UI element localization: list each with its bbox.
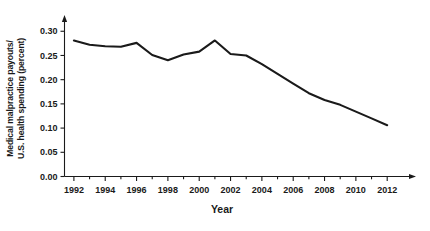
y-tick-label: 0.25 [40, 51, 58, 61]
x-axis-title: Year [211, 203, 233, 215]
x-tick-label: 2000 [189, 185, 209, 195]
x-tick-label: 2010 [346, 185, 366, 195]
data-series-line [74, 40, 387, 125]
y-tick-label: 0.30 [40, 26, 58, 36]
x-axis-title-container: Year [0, 203, 430, 215]
x-axis-ticks: 1992199419961998200020022004200620082010… [64, 177, 397, 195]
x-tick-label: 2008 [315, 185, 335, 195]
x-tick-label: 2006 [283, 185, 303, 195]
x-tick-label: 1992 [64, 185, 84, 195]
x-tick-label: 1996 [127, 185, 147, 195]
axes-group [62, 15, 416, 179]
y-axis-ticks: 0.000.050.100.150.200.250.30 [40, 26, 65, 181]
y-tick-label: 0.15 [40, 99, 58, 109]
x-tick-label: 2004 [252, 185, 272, 195]
chart-figure: Medical malpractice payouts/ U.S. health… [0, 0, 430, 231]
x-tick-label: 1994 [95, 185, 115, 195]
y-tick-label: 0.20 [40, 75, 58, 85]
x-tick-label: 2012 [377, 185, 397, 195]
y-tick-label: 0.05 [40, 147, 58, 157]
x-tick-label: 2002 [221, 185, 241, 195]
plot-area: 0.000.050.100.150.200.250.30 19921994199… [0, 0, 430, 231]
y-tick-label: 0.00 [40, 172, 58, 182]
y-tick-label: 0.10 [40, 123, 58, 133]
x-tick-label: 1998 [158, 185, 178, 195]
